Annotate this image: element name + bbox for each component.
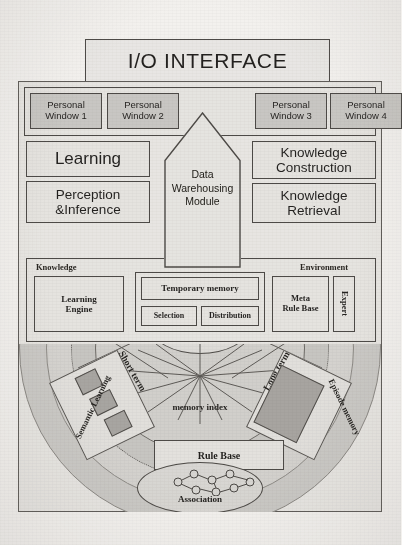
metarb-line1: Meta [291, 293, 310, 303]
pw3-line1: Personal [272, 99, 310, 110]
expert-label: Expert [339, 291, 349, 316]
io-interface-label: I/O INTERFACE [128, 49, 288, 73]
dwm-line2: Warehousing [172, 182, 233, 194]
semantic-chip-3 [104, 410, 133, 437]
distribution-label: Distribution [209, 312, 251, 321]
memory-index-label: memory index [172, 402, 227, 412]
personal-window-2: Personal Window 2 [107, 93, 179, 129]
meta-rule-base-box: Meta Rule Base [272, 276, 329, 332]
learning-module: Learning [26, 141, 150, 177]
kcons-line1: Knowledge [281, 145, 348, 160]
lengine-line2: Engine [65, 304, 92, 314]
pw1-line1: Personal [47, 99, 85, 110]
kretr-line2: Retrieval [287, 203, 340, 218]
percep-line2: &Inference [55, 202, 120, 217]
association-label: Association [178, 494, 222, 504]
learning-engine-box: Learning Engine [34, 276, 124, 332]
knowledge-construction-module: Knowledge Construction [252, 141, 376, 179]
pw4-line2: Window 4 [345, 110, 387, 121]
pw1-line2: Window 1 [45, 110, 87, 121]
data-warehousing-module-label: Data Warehousing Module [164, 168, 241, 209]
environment-section-label: Environment [300, 262, 348, 272]
dwm-line3: Module [185, 195, 219, 207]
pw3-line2: Window 3 [270, 110, 312, 121]
personal-window-1: Personal Window 1 [30, 93, 102, 129]
rule-base-label: Rule Base [198, 450, 241, 461]
kcons-line2: Construction [276, 160, 352, 175]
knowledge-section-label: Knowledge [36, 262, 77, 272]
lengine-line1: Learning [61, 294, 97, 304]
personal-window-4: Personal Window 4 [330, 93, 402, 129]
pw2-line1: Personal [124, 99, 162, 110]
temporary-memory-label: Temporary memory [161, 283, 238, 293]
selection-label: Selection [154, 312, 185, 321]
temporary-memory-box: Temporary memory [141, 277, 259, 300]
metarb-line2: Rule Base [282, 303, 318, 313]
knowledge-retrieval-module: Knowledge Retrieval [252, 183, 376, 223]
expert-box: Expert [333, 276, 355, 332]
pw2-line2: Window 2 [122, 110, 164, 121]
pw4-line1: Personal [347, 99, 385, 110]
dwm-line1: Data [191, 168, 213, 180]
io-interface-box: I/O INTERFACE [85, 39, 330, 83]
distribution-box: Distribution [201, 306, 259, 326]
selection-box: Selection [141, 306, 197, 326]
perception-inference-module: Perception &Inference [26, 181, 150, 223]
association-network-icon [166, 468, 270, 496]
learning-label: Learning [55, 149, 121, 168]
memory-system-area: Gate memory index Short term Long term S… [18, 344, 382, 512]
personal-window-3: Personal Window 3 [255, 93, 327, 129]
kretr-line1: Knowledge [281, 188, 348, 203]
percep-line1: Perception [56, 187, 121, 202]
